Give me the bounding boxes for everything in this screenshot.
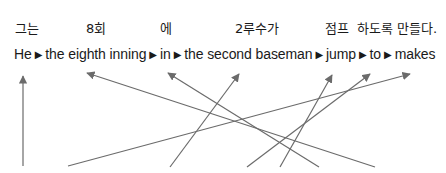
mapping-arrow-6 — [68, 74, 410, 166]
mapping-arrow-4 — [247, 74, 370, 167]
word-mapping-arrows — [0, 0, 446, 173]
mapping-arrow-5 — [280, 75, 332, 167]
mapping-arrow-3 — [170, 74, 239, 167]
mapping-arrow-1 — [87, 73, 375, 167]
mapping-arrow-2 — [168, 73, 319, 167]
